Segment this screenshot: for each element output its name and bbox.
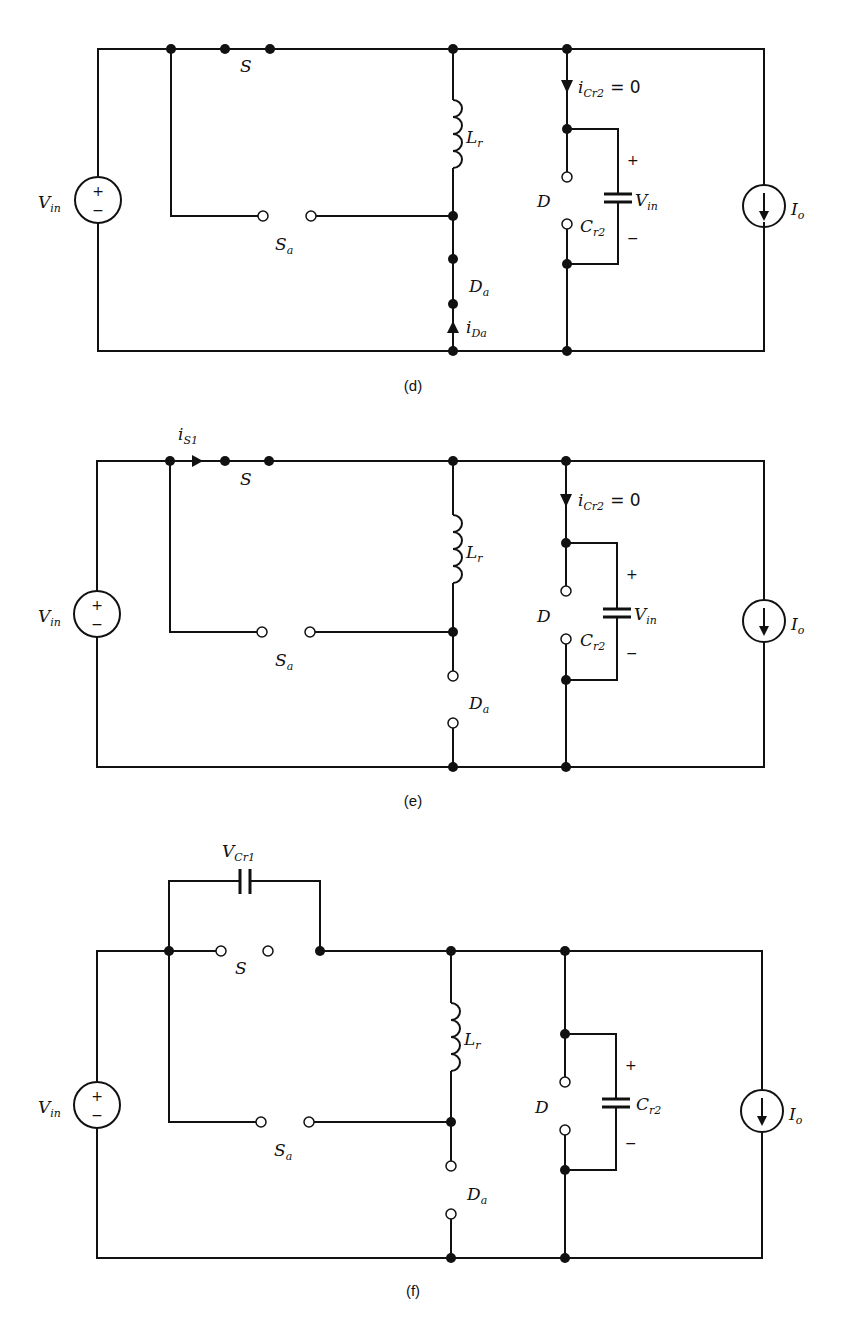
svg-text:−: −: [92, 202, 104, 218]
current-source-icon: [743, 185, 785, 227]
vin-label: Vin: [38, 1097, 61, 1120]
io-label: Io: [788, 1104, 803, 1127]
svg-text:+: +: [91, 1088, 103, 1104]
svg-text:+: +: [91, 597, 103, 613]
sa-label: Sa: [275, 234, 293, 257]
plus-sign: +: [627, 152, 639, 168]
inductor-icon: [453, 515, 462, 583]
top-rail: [98, 49, 764, 186]
lr-label: Lr: [465, 127, 483, 150]
current-arrow-right-icon: [192, 455, 203, 467]
inductor-icon: [451, 1003, 460, 1071]
circuit-panel-e: + − Vin iS1 S Sa Lr Da iCr2= 0: [38, 424, 805, 809]
d-label: D: [534, 1097, 549, 1117]
capacitor-icon: [604, 194, 632, 202]
vin-label: Vin: [38, 192, 61, 215]
diode-d-open-icon: [560, 1077, 570, 1087]
voltage-source-icon: + −: [74, 591, 120, 637]
sa-label: Sa: [274, 1140, 292, 1163]
io-label: Io: [790, 199, 805, 222]
switch-sa-open-icon: [257, 627, 267, 637]
caption-e: (e): [404, 792, 422, 809]
cr2-label: Cr2: [580, 216, 605, 239]
plus-sign: +: [625, 1057, 637, 1073]
current-arrow-up-icon: [447, 321, 459, 333]
cr2-label: Cr2: [580, 630, 605, 653]
caption-f: (f): [406, 1282, 420, 1299]
da-label: Da: [466, 1184, 487, 1207]
vin-cap-label: Vin: [634, 604, 657, 627]
io-label: Io: [790, 614, 805, 637]
caption-d: (d): [404, 377, 422, 394]
vin-cap-label: Vin: [635, 190, 658, 213]
lr-label: Lr: [465, 542, 483, 565]
diode-d-open-icon: [562, 172, 572, 182]
ida-label: iDa: [466, 317, 487, 340]
switch-sa-open-icon: [256, 1117, 266, 1127]
d-label: D: [536, 606, 551, 626]
capacitor-icon: [602, 1099, 630, 1107]
d-label: D: [536, 191, 551, 211]
diode-da-open-icon: [448, 671, 458, 681]
plus-sign: +: [626, 566, 638, 582]
voltage-source-icon: + −: [74, 1082, 120, 1128]
diode-da-closed-icon: [448, 254, 458, 264]
switch-sa-open-icon: [258, 211, 268, 221]
inductor-icon: [453, 100, 462, 168]
svg-text:−: −: [91, 1107, 103, 1123]
vcr1-label: VCr1: [222, 841, 255, 864]
vin-label: Vin: [38, 606, 61, 629]
bottom-rail: [98, 222, 764, 351]
lr-label: Lr: [463, 1029, 481, 1052]
current-arrow-down-icon: [560, 494, 572, 507]
switch-s-label: S: [240, 469, 252, 489]
is1-label: iS1: [178, 424, 198, 447]
switch-s-closed-icon: [220, 44, 230, 54]
current-source-icon: [741, 1090, 783, 1132]
capacitor-icon: [603, 609, 631, 617]
icr2-label: iCr2= 0: [578, 490, 641, 513]
snubber-capacitor-icon: [240, 869, 250, 894]
minus-sign: −: [627, 230, 639, 246]
current-source-icon: [743, 600, 785, 642]
switch-s-label: S: [240, 56, 252, 76]
sa-label: Sa: [275, 650, 293, 673]
da-label: Da: [468, 693, 489, 716]
circuit-panel-d: + − Vin S Sa Lr Da iDa iCr2= 0: [38, 44, 805, 394]
svg-text:+: +: [92, 183, 104, 199]
diode-d-open-icon: [561, 586, 571, 596]
voltage-source-icon: + −: [75, 177, 121, 223]
minus-sign: −: [625, 1135, 637, 1151]
switch-s-open-icon: [216, 946, 226, 956]
switch-s-closed-icon: [220, 456, 230, 466]
cr2-label: Cr2: [636, 1094, 661, 1117]
diode-da-open-icon: [446, 1161, 456, 1171]
icr2-label: iCr2= 0: [578, 77, 641, 100]
switch-s-label: S: [235, 958, 247, 978]
circuit-panel-f: + − Vin VCr1 S Sa Lr Da: [38, 841, 803, 1299]
current-arrow-down-icon: [561, 80, 573, 93]
da-label: Da: [468, 276, 489, 299]
minus-sign: −: [626, 645, 638, 661]
svg-text:−: −: [91, 616, 103, 632]
